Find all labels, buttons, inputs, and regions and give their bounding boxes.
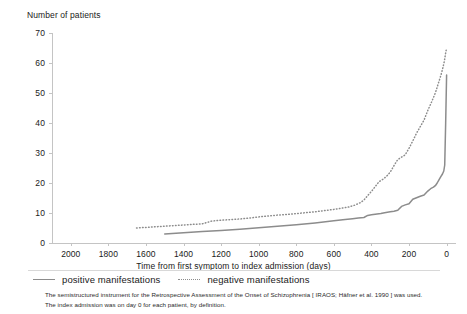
x-tick-label: 1800 — [88, 249, 128, 259]
x-tick-label: 1200 — [201, 249, 241, 259]
x-tick-label: 1400 — [164, 249, 204, 259]
x-tick-mark — [184, 243, 185, 246]
x-tick-mark — [108, 243, 109, 246]
chart-legend: positive manifestations negative manifes… — [33, 274, 310, 285]
x-tick-label: 800 — [276, 249, 316, 259]
x-tick-mark — [334, 243, 335, 246]
x-tick-mark — [146, 243, 147, 246]
x-axis-line — [52, 243, 456, 244]
y-tick-mark — [49, 243, 52, 244]
series-line-positive — [165, 75, 447, 234]
x-tick-label: 400 — [351, 249, 391, 259]
dotted-line-swatch-icon — [178, 279, 200, 280]
legend-divider — [28, 270, 440, 271]
y-tick-label: 30 — [0, 148, 45, 158]
legend-item-negative: negative manifestations — [178, 274, 309, 285]
series-canvas — [52, 33, 456, 243]
x-tick-mark — [259, 243, 260, 246]
x-tick-label: 1000 — [239, 249, 279, 259]
figure-footnote: The semistructured instrument for the Re… — [45, 290, 460, 309]
x-tick-label: 600 — [314, 249, 354, 259]
legend-label-negative: negative manifestations — [207, 274, 309, 285]
legend-label-positive: positive manifestations — [62, 274, 160, 285]
y-tick-label: 10 — [0, 208, 45, 218]
x-tick-mark — [409, 243, 410, 246]
solid-line-swatch-icon — [33, 279, 55, 280]
y-tick-label: 40 — [0, 118, 45, 128]
x-tick-mark — [447, 243, 448, 246]
x-tick-label: 2000 — [51, 249, 91, 259]
x-tick-label: 0 — [427, 249, 467, 259]
x-tick-mark — [221, 243, 222, 246]
y-axis-title: Number of patients — [27, 10, 101, 20]
y-tick-label: 70 — [0, 28, 45, 38]
y-tick-label: 20 — [0, 178, 45, 188]
footnote-line-2: The index admission was on day 0 for eac… — [45, 300, 460, 310]
series-line-negative — [137, 48, 447, 228]
legend-item-positive: positive manifestations — [33, 274, 160, 285]
x-tick-mark — [371, 243, 372, 246]
x-tick-label: 1600 — [126, 249, 166, 259]
plot-area — [52, 33, 456, 243]
x-tick-mark — [296, 243, 297, 246]
x-tick-mark — [71, 243, 72, 246]
chart-figure: Number of patients 010203040506070 20001… — [0, 0, 467, 314]
x-tick-label: 200 — [389, 249, 429, 259]
y-tick-label: 50 — [0, 88, 45, 98]
y-tick-label: 60 — [0, 58, 45, 68]
footnote-line-1: The semistructured instrument for the Re… — [45, 290, 460, 300]
y-tick-label: 0 — [0, 238, 45, 248]
